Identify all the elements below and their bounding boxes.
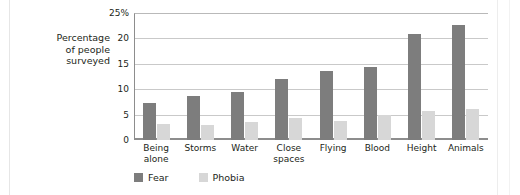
bar-group	[311, 13, 355, 140]
bar-fear-close-spaces	[275, 79, 288, 140]
x-axis-label-line: Animals	[444, 143, 488, 154]
bar-group	[400, 13, 444, 140]
x-axis-label-line: Close	[267, 143, 311, 154]
bar-fear-water	[231, 92, 244, 140]
x-axis-label-line: spaces	[267, 154, 311, 165]
x-axis-label-line: Flying	[311, 143, 355, 154]
bar-group	[134, 13, 178, 140]
category-labels: BeingaloneStormsWaterClosespacesFlyingBl…	[134, 143, 488, 165]
x-axis-label-blood: Blood	[355, 143, 399, 165]
bar-fear-flying	[320, 71, 333, 140]
bar-group	[444, 13, 488, 140]
x-axis-label-line: Water	[223, 143, 267, 154]
y-axis-title: Percentage of people surveyed	[18, 32, 110, 67]
legend-item-fear: Fear	[134, 172, 169, 183]
bar-phobia-height	[422, 111, 435, 140]
bar-phobia-animals	[466, 109, 479, 140]
x-axis-label-height: Height	[400, 143, 444, 165]
y-axis-tick-20: 20	[118, 33, 129, 43]
x-axis-label-line: Height	[400, 143, 444, 154]
bar-group	[355, 13, 399, 140]
x-axis-label-flying: Flying	[311, 143, 355, 165]
y-axis-tick-25: 25%	[109, 8, 129, 18]
bar-group	[178, 13, 222, 140]
y-axis-title-line-2: of people	[18, 44, 110, 56]
x-axis-label-line: Being	[134, 143, 178, 154]
y-axis-tick-10: 10	[118, 84, 129, 94]
x-axis-label-line: alone	[134, 154, 178, 165]
plot-area: 25%20151050	[134, 13, 488, 140]
x-axis-label-line: Storms	[178, 143, 222, 154]
y-axis-title-line-1: Percentage	[18, 32, 110, 44]
bar-phobia-water	[245, 122, 258, 140]
x-axis-label-storms: Storms	[178, 143, 222, 165]
y-axis-tick-5: 5	[123, 110, 129, 120]
legend-label-phobia: Phobia	[213, 172, 245, 183]
x-axis-label-line: Blood	[355, 143, 399, 154]
bar-phobia-blood	[378, 115, 391, 140]
page-edge-line-left	[9, 0, 10, 195]
bar-groups	[134, 13, 488, 140]
x-axis-label-animals: Animals	[444, 143, 488, 165]
x-axis-label-close-spaces: Closespaces	[267, 143, 311, 165]
y-axis-title-line-3: surveyed	[18, 55, 110, 67]
x-axis-label-being-alone: Beingalone	[134, 143, 178, 165]
bar-fear-storms	[187, 96, 200, 140]
bar-phobia-close-spaces	[289, 118, 302, 140]
legend-item-phobia: Phobia	[199, 172, 245, 183]
bar-phobia-flying	[334, 121, 347, 140]
bar-fear-being-alone	[143, 103, 156, 140]
bar-group	[267, 13, 311, 140]
y-axis-tick-0: 0	[123, 135, 129, 145]
legend-swatch-phobia-icon	[199, 173, 208, 182]
chart-figure: Percentage of people surveyed 25%2015105…	[0, 0, 520, 195]
bar-group	[223, 13, 267, 140]
bar-phobia-storms	[201, 125, 214, 140]
y-axis-tick-15: 15	[118, 59, 129, 69]
bar-fear-height	[408, 34, 421, 140]
bar-phobia-being-alone	[157, 124, 170, 140]
bar-fear-blood	[364, 67, 377, 140]
page-edge-line-right-outer	[509, 0, 510, 195]
chart-legend: Fear Phobia	[134, 172, 245, 183]
legend-swatch-fear-icon	[134, 173, 143, 182]
legend-label-fear: Fear	[148, 172, 169, 183]
x-axis-label-water: Water	[223, 143, 267, 165]
page-edge-line-right	[497, 0, 498, 195]
bar-fear-animals	[452, 25, 465, 140]
